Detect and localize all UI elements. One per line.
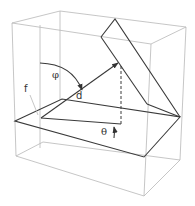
projection-line <box>41 118 121 124</box>
phi-arc <box>40 63 82 90</box>
label-d: d <box>76 90 82 101</box>
label-theta: θ <box>101 126 107 137</box>
outer-box <box>12 11 186 196</box>
inclined-plane <box>101 19 180 117</box>
label-phi: φ <box>52 69 59 80</box>
theta-arc <box>114 127 115 138</box>
diagram-canvas: φ d f θ <box>0 0 195 206</box>
label-f: f <box>24 83 28 94</box>
